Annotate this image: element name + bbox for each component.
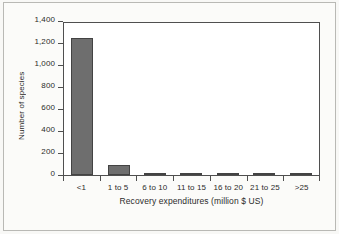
x-axis-tick-label: 11 to 15 — [173, 183, 210, 192]
plot-area — [63, 22, 320, 176]
x-axis-tick-mark — [173, 176, 174, 181]
x-axis-tick-mark — [136, 176, 137, 181]
x-axis-labels: <1 1 to 5 6 to 10 11 to 15 16 to 20 21 t… — [63, 183, 320, 192]
x-axis-tick-mark — [247, 176, 248, 181]
bar-slot — [210, 23, 246, 175]
y-axis-tick-label: 600 — [41, 103, 55, 112]
y-axis-tick-label: 200 — [41, 147, 55, 156]
y-axis: 1,400 1,200 1,000 800 600 400 200 0 — [0, 0, 63, 176]
bar[interactable] — [108, 165, 130, 175]
y-axis-tick-label: 800 — [41, 81, 55, 90]
x-axis-tick-label: >25 — [283, 183, 320, 192]
x-axis-tick-mark — [63, 176, 64, 181]
x-axis-tick-label: 16 to 20 — [210, 183, 247, 192]
x-axis — [63, 176, 320, 182]
bar-slot — [283, 23, 319, 175]
y-axis-title: Number of species — [17, 56, 29, 156]
bar[interactable] — [253, 173, 275, 175]
y-axis-tick-label: 1,200 — [34, 37, 55, 46]
x-axis-tick-mark — [319, 176, 320, 181]
y-axis-tick-label: 1,000 — [34, 59, 55, 68]
x-axis-title: Recovery expenditures (million $ US) — [63, 196, 320, 206]
bar-slot — [100, 23, 136, 175]
bar-slot — [64, 23, 100, 175]
bar[interactable] — [290, 173, 312, 175]
x-axis-tick-label: 6 to 10 — [136, 183, 173, 192]
x-axis-tick-mark — [100, 176, 101, 181]
bars-layer — [64, 23, 319, 175]
x-axis-tick-label: 21 to 25 — [247, 183, 284, 192]
bar-slot — [246, 23, 282, 175]
bar-slot — [137, 23, 173, 175]
x-axis-tick-label: <1 — [63, 183, 100, 192]
y-axis-tick-label: 400 — [41, 125, 55, 134]
x-axis-tick-mark — [283, 176, 284, 181]
y-axis-tick-label: 0 — [50, 169, 55, 178]
x-axis-tick-mark — [210, 176, 211, 181]
x-axis-tick-label: 1 to 5 — [100, 183, 137, 192]
bar[interactable] — [144, 173, 166, 175]
bar[interactable] — [71, 38, 93, 175]
figure: 1,400 1,200 1,000 800 600 400 200 0 — [0, 0, 339, 234]
bar-slot — [173, 23, 209, 175]
bar[interactable] — [180, 173, 202, 175]
y-axis-tick-label: 1,400 — [34, 15, 55, 24]
bar[interactable] — [217, 173, 239, 175]
